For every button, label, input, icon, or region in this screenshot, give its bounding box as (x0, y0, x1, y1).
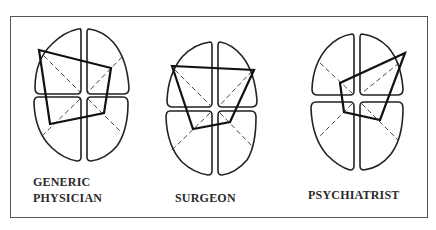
axis-dashed-2 (220, 71, 252, 105)
profile-polygon-surgeon (172, 66, 254, 129)
axis-dashed-2 (362, 63, 399, 93)
axis-dashed-1 (44, 56, 80, 92)
axis-dashed-4 (362, 104, 398, 140)
axis-dashed-4 (220, 113, 252, 146)
label-psychiatrist: PSYCHIATRIST (308, 187, 400, 203)
brain-generic-physician (34, 29, 129, 161)
lobe-bottom-right (87, 97, 128, 161)
axis-dashed-2 (88, 57, 122, 92)
lobe-bottom-right (218, 111, 256, 175)
lobe-top-left (35, 29, 81, 94)
lobe-bottom-left (34, 97, 81, 161)
label-generic-physician: GENERIC PHYSICIAN (33, 174, 102, 206)
brain-psychiatrist (311, 34, 405, 170)
label-surgeon: SURGEON (175, 190, 236, 206)
brain-surgeon (166, 42, 257, 175)
lobe-bottom-left (166, 111, 212, 175)
diagram-figure: GENERIC PHYSICIAN SURGEON PSYCHIATRIST (0, 0, 436, 230)
lobe-bottom-right (360, 102, 403, 170)
axis-dashed-1 (320, 63, 352, 93)
profile-polygon-psychiatrist (340, 53, 405, 120)
axis-dashed-3 (318, 104, 352, 138)
lobe-top-left (312, 34, 354, 95)
label-line-2: PHYSICIAN (33, 190, 102, 206)
label-line-1: GENERIC (33, 174, 102, 190)
axis-dashed-3 (172, 113, 210, 150)
